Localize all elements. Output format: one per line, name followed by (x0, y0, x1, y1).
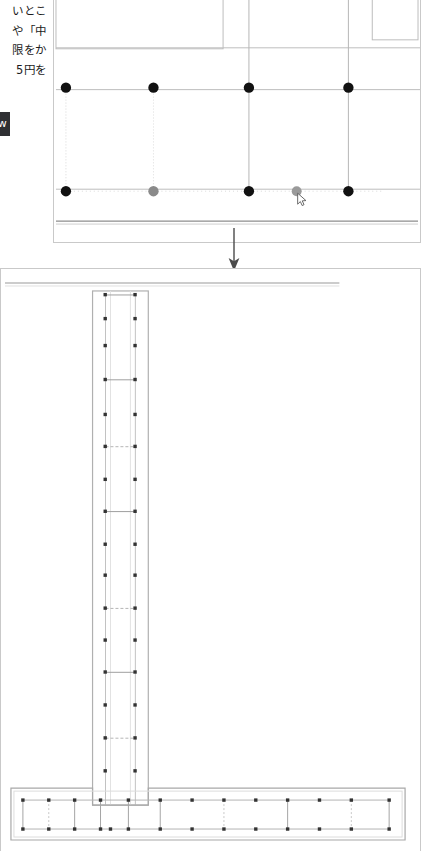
footing-rebar-longitudinal (23, 800, 389, 829)
article-text-line: 5円を (0, 61, 46, 81)
flow-arrow-icon (222, 228, 246, 272)
elevation-view-panel[interactable] (0, 268, 421, 851)
mouse-cursor-icon (298, 193, 306, 205)
drawing-stage: いとこ や「中 限をか 5円を jww (0, 0, 421, 851)
plan-node-hovered[interactable] (292, 186, 302, 196)
plan-node-row-lower[interactable] (61, 186, 354, 196)
footing-stirrups (23, 800, 389, 829)
plan-node-highlighted[interactable] (148, 186, 158, 196)
file-format-badge: jww (0, 112, 10, 136)
article-text-line: いとこ (0, 2, 46, 22)
footing-vertices[interactable] (21, 798, 391, 830)
plan-node[interactable] (343, 82, 353, 92)
plan-block-right (372, 0, 418, 40)
plan-node-row-upper[interactable] (61, 82, 354, 92)
plan-node[interactable] (61, 82, 71, 92)
plan-view-panel[interactable] (53, 0, 421, 243)
flow-arrow (222, 228, 246, 272)
plan-node[interactable] (148, 82, 158, 92)
elevation-top-rule (5, 283, 339, 286)
footing-outline[interactable] (11, 788, 405, 840)
plan-view-canvas[interactable] (54, 0, 420, 242)
elevation-view-canvas[interactable] (1, 269, 420, 851)
article-text-line: や「中 (0, 22, 46, 42)
column-outline[interactable] (93, 291, 149, 805)
plan-horizontal-gridlines (56, 48, 420, 224)
plan-node[interactable] (244, 186, 254, 196)
article-text-line: 限をか (0, 41, 46, 61)
plan-node[interactable] (61, 186, 71, 196)
plan-node[interactable] (343, 186, 353, 196)
plan-node[interactable] (244, 82, 254, 92)
article-text-column: いとこ や「中 限をか 5円を (0, 2, 46, 80)
plan-block-left (56, 0, 223, 49)
